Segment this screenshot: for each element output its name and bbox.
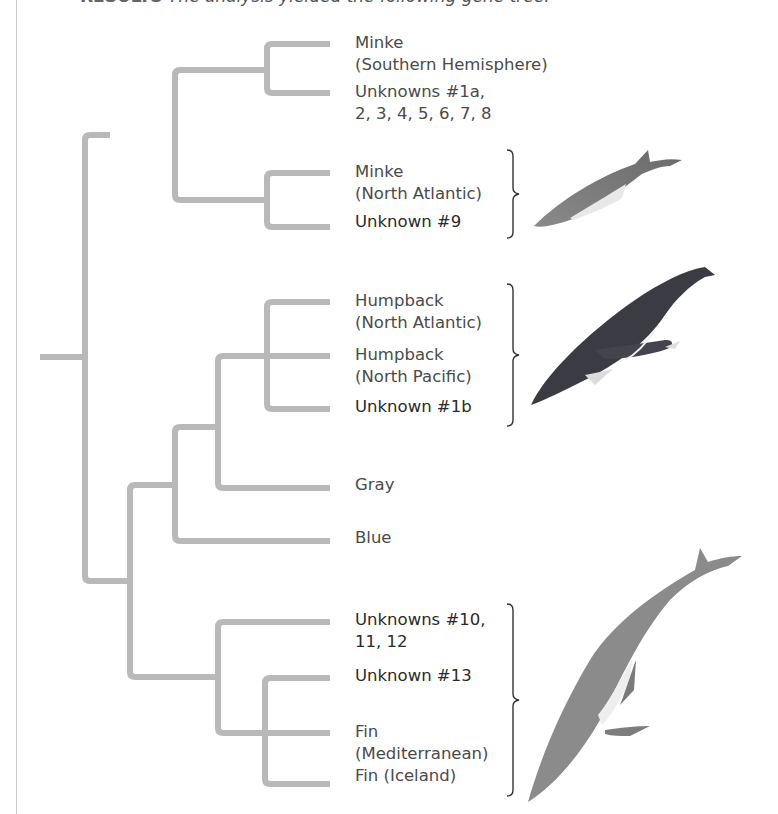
taxon-label-fin-med: Fin (Mediterranean): [355, 721, 489, 765]
taxon-line: (North Pacific): [355, 366, 472, 388]
minke-whale-illustration: [530, 140, 690, 235]
taxon-line: 11, 12: [355, 631, 486, 653]
minke-group-bracket: [505, 148, 525, 240]
taxon-label-unknown-1b: Unknown #1b: [355, 396, 472, 418]
root-node: [85, 135, 130, 581]
taxon-line: Unknown #13: [355, 665, 472, 687]
taxon-line: Humpback: [355, 290, 482, 312]
taxon-label-humpback-np: Humpback (North Pacific): [355, 344, 472, 388]
minke-na-node: [267, 173, 330, 227]
taxon-line: Unknown #1b: [355, 396, 472, 418]
taxon-line: Minke: [355, 32, 548, 54]
taxon-line: Unknowns #10,: [355, 609, 486, 631]
taxon-line: (Mediterranean): [355, 743, 489, 765]
gray-node: [218, 356, 330, 488]
taxon-label-minke-sh: Minke (Southern Hemisphere): [355, 32, 548, 76]
taxon-line: Unknown #9: [355, 211, 461, 233]
taxon-line: Blue: [355, 527, 392, 549]
taxon-line: 2, 3, 4, 5, 6, 7, 8: [355, 103, 491, 125]
taxon-line: Gray: [355, 474, 394, 496]
taxon-label-unknowns-1a-8: Unknowns #1a, 2, 3, 4, 5, 6, 7, 8: [355, 81, 491, 125]
taxon-label-humpback-na: Humpback (North Atlantic): [355, 290, 482, 334]
taxon-label-gray: Gray: [355, 474, 394, 496]
humpback-group-bracket: [505, 282, 525, 428]
taxon-line: Minke: [355, 161, 482, 183]
taxon-line: (Southern Hemisphere): [355, 54, 548, 76]
taxon-line: (North Atlantic): [355, 312, 482, 334]
minke-clade-node: [175, 70, 267, 200]
fin-whale-illustration: [520, 540, 748, 810]
taxon-line: Fin: [355, 721, 489, 743]
taxon-label-blue: Blue: [355, 527, 392, 549]
taxon-label-unknown-13: Unknown #13: [355, 665, 472, 687]
taxon-label-fin-iceland: Fin (Iceland): [355, 765, 456, 787]
minke-sh-node: [267, 44, 330, 93]
humpback-whale-illustration: [525, 255, 720, 410]
taxon-line: (North Atlantic): [355, 183, 482, 205]
taxon-line: Unknowns #1a,: [355, 81, 491, 103]
taxon-label-minke-na: Minke (North Atlantic): [355, 161, 482, 205]
taxon-label-unknowns-10-12: Unknowns #10, 11, 12: [355, 609, 486, 653]
taxon-line: Fin (Iceland): [355, 765, 456, 787]
taxon-line: Humpback: [355, 344, 472, 366]
blue-node: [175, 427, 330, 541]
taxon-label-unknown-9: Unknown #9: [355, 211, 461, 233]
